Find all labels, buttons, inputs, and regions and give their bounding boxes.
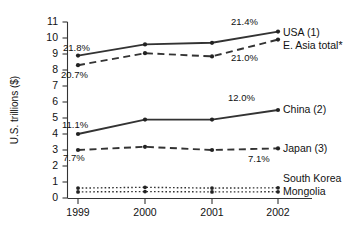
series-mongolia-point-1999 bbox=[76, 190, 80, 194]
y-tick-label-7: 7 bbox=[52, 79, 58, 91]
series-south-korea-point-2001 bbox=[210, 186, 214, 190]
series-usa-point-2000 bbox=[143, 42, 147, 46]
series-usa-point-2001 bbox=[210, 41, 214, 45]
x-tick-label-2001: 2001 bbox=[200, 206, 224, 218]
series-label-south-korea: South Korea bbox=[283, 172, 342, 184]
series-japan-point-2002 bbox=[276, 146, 280, 150]
annotation-china-start-pct: 11.1% bbox=[62, 119, 89, 130]
series-china bbox=[76, 108, 280, 136]
annotation-japan-start-pct: 7.7% bbox=[63, 152, 85, 163]
series-japan-point-2000 bbox=[143, 145, 147, 149]
series-south-korea-point-1999 bbox=[76, 186, 80, 190]
series-label-east-asia: E. Asia total* bbox=[283, 39, 343, 51]
y-tick-label-1: 1 bbox=[52, 175, 58, 187]
series-mongolia bbox=[76, 190, 280, 194]
series-usa-point-1999 bbox=[76, 54, 80, 58]
series-east-asia-point-2002 bbox=[276, 38, 280, 42]
y-tick-label-9: 9 bbox=[52, 47, 58, 59]
x-tick-label-2000: 2000 bbox=[133, 206, 157, 218]
series-label-japan: Japan (3) bbox=[283, 142, 327, 154]
series-china-line bbox=[78, 110, 278, 134]
x-tick-label-2002: 2002 bbox=[266, 206, 290, 218]
series-china-point-2002 bbox=[276, 108, 280, 112]
y-tick-label-3: 3 bbox=[52, 143, 58, 155]
series-japan-line bbox=[78, 147, 278, 150]
line-chart: 11 10 9 8 7 6 5 4 3 2 1 0 U.S. trillions… bbox=[0, 0, 346, 231]
series-south-korea-point-2002 bbox=[276, 186, 280, 190]
annotation-usa-end-pct: 21.4% bbox=[231, 16, 258, 27]
series-east-asia-point-1999 bbox=[76, 63, 80, 67]
series-east-asia-point-2001 bbox=[210, 54, 214, 58]
series-south-korea-line bbox=[78, 187, 278, 188]
series-mongolia-point-2000 bbox=[143, 190, 147, 194]
series-china-point-2000 bbox=[143, 118, 147, 122]
y-tick-label-2: 2 bbox=[52, 159, 58, 171]
series-japan-point-2001 bbox=[210, 148, 214, 152]
x-axis-ticks bbox=[78, 199, 278, 205]
series-mongolia-point-2001 bbox=[210, 190, 214, 194]
series-japan bbox=[76, 145, 280, 152]
annotation-china-end-pct: 12.0% bbox=[228, 92, 255, 103]
y-tick-label-6: 6 bbox=[52, 95, 58, 107]
series-label-china: China (2) bbox=[283, 103, 326, 115]
series-south-korea-point-2000 bbox=[143, 185, 147, 189]
annotation-easia-end-pct: 21.0% bbox=[231, 52, 258, 63]
y-tick-label-5: 5 bbox=[52, 111, 58, 123]
annotation-japan-end-pct: 7.1% bbox=[248, 153, 270, 164]
series-south-korea bbox=[76, 185, 280, 190]
y-tick-label-11: 11 bbox=[47, 15, 58, 27]
y-tick-label-10: 10 bbox=[46, 31, 58, 43]
y-tick-label-0: 0 bbox=[52, 191, 58, 203]
series-mongolia-point-2002 bbox=[276, 190, 280, 194]
annotation-easia-start-pct: 20.7% bbox=[61, 69, 88, 80]
annotation-usa-start-pct: 21.8% bbox=[63, 42, 90, 53]
y-axis-title: U.S. trillions ($) bbox=[9, 76, 20, 144]
y-tick-label-4: 4 bbox=[52, 127, 58, 139]
series-china-point-2001 bbox=[210, 118, 214, 122]
y-tick-label-8: 8 bbox=[52, 63, 58, 75]
series-label-usa: USA (1) bbox=[283, 26, 320, 38]
series-east-asia-point-2000 bbox=[143, 51, 147, 55]
series-usa-point-2002 bbox=[276, 30, 280, 34]
x-tick-label-1999: 1999 bbox=[66, 206, 90, 218]
chart-svg: 11 10 9 8 7 6 5 4 3 2 1 0 U.S. trillions… bbox=[0, 0, 346, 231]
series-china-point-1999 bbox=[76, 132, 80, 136]
series-label-mongolia: Mongolia bbox=[283, 185, 326, 197]
